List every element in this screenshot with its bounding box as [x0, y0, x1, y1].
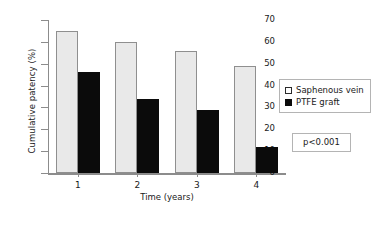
y-axis-tick [41, 107, 48, 108]
y-axis-tick [41, 20, 48, 21]
y-axis-tick-label: 70 [235, 15, 275, 24]
plot-area: 010203040506070 1234 [48, 20, 286, 173]
y-axis-tick [41, 173, 48, 174]
legend-label-saphenous-vein: Saphenous vein [296, 86, 364, 95]
legend: Saphenous vein PTFE graft [279, 79, 371, 113]
p-value-annotation: p<0.001 [292, 133, 351, 152]
legend-item-ptfe-graft: PTFE graft [285, 96, 364, 108]
x-axis-tick [137, 173, 138, 177]
y-axis-tick [41, 42, 48, 43]
x-axis-tick-label: 3 [177, 180, 217, 190]
legend-item-saphenous-vein: Saphenous vein [285, 84, 364, 96]
bar-chart: Cumulative patency (%) 010203040506070 1… [0, 0, 387, 225]
y-axis-line [48, 20, 49, 173]
y-axis-tick [41, 151, 48, 152]
bar [234, 66, 256, 173]
legend-label-ptfe-graft: PTFE graft [296, 98, 340, 107]
y-axis-tick [41, 129, 48, 130]
x-axis-tick-label: 2 [117, 180, 157, 190]
x-axis-tick [256, 173, 257, 177]
bar [78, 72, 100, 173]
x-axis-tick [78, 173, 79, 177]
bar [137, 99, 159, 173]
y-axis-tick [41, 64, 48, 65]
legend-swatch-icon-saphenous-vein [285, 87, 292, 94]
x-axis-title: Time (years) [48, 192, 286, 202]
bar [115, 42, 137, 173]
x-axis-tick-label: 4 [236, 180, 276, 190]
bar [175, 51, 197, 173]
legend-swatch-icon-ptfe-graft [285, 99, 292, 106]
bar [256, 147, 278, 173]
x-axis-tick-label: 1 [58, 180, 98, 190]
y-axis-tick-label: 60 [235, 37, 275, 46]
x-axis-tick [197, 173, 198, 177]
y-axis-tick [41, 86, 48, 87]
bar [197, 110, 219, 173]
bar [56, 31, 78, 173]
y-axis-title: Cumulative patency (%) [27, 21, 37, 181]
